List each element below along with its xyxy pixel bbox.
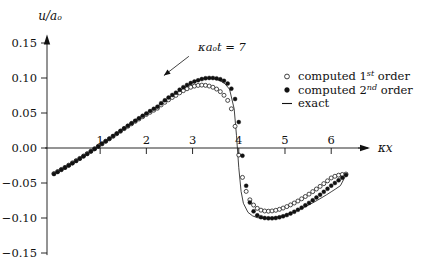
- data-point-2nd-order: [314, 196, 318, 200]
- data-point-2nd-order: [170, 93, 174, 97]
- data-point-1st-order: [229, 107, 233, 111]
- data-point-2nd-order: [277, 215, 281, 219]
- data-point-1st-order: [215, 87, 219, 91]
- y-tick-label: −0.15: [2, 246, 37, 260]
- data-point-2nd-order: [59, 168, 63, 172]
- data-point-2nd-order: [340, 176, 344, 180]
- data-point-2nd-order: [322, 190, 326, 194]
- data-point-2nd-order: [240, 154, 244, 158]
- data-point-1st-order: [240, 175, 244, 179]
- data-point-1st-order: [244, 189, 248, 193]
- data-point-2nd-order: [93, 147, 97, 151]
- data-point-1st-order: [318, 184, 322, 188]
- data-point-2nd-order: [333, 181, 337, 185]
- data-point-2nd-order: [303, 203, 307, 207]
- data-point-2nd-order: [244, 184, 248, 188]
- data-point-2nd-order: [233, 97, 237, 101]
- legend-layer: computed 1st ordercomputed 2nd orderexac…: [282, 69, 413, 110]
- data-point-2nd-order: [104, 139, 108, 143]
- data-point-2nd-order: [52, 172, 56, 176]
- data-point-1st-order: [192, 84, 196, 88]
- axes-layer: [41, 35, 370, 256]
- data-point-2nd-order: [178, 88, 182, 92]
- x-tick-label: 5: [281, 133, 288, 147]
- data-point-2nd-order: [67, 164, 71, 168]
- y-tick-label: 0.05: [11, 106, 37, 120]
- wave-steepening-chart: 123456−0.15−0.10−0.050.000.050.100.15 κa…: [0, 0, 429, 267]
- annotation-arrowhead: [164, 70, 171, 76]
- data-point-1st-order: [218, 90, 222, 94]
- data-point-2nd-order: [222, 79, 226, 83]
- data-point-2nd-order: [107, 137, 111, 141]
- data-point-1st-order: [303, 195, 307, 199]
- data-point-2nd-order: [82, 154, 86, 158]
- data-point-2nd-order: [174, 91, 178, 95]
- data-point-2nd-order: [248, 201, 252, 205]
- data-point-2nd-order: [111, 134, 115, 138]
- data-point-2nd-order: [311, 198, 315, 202]
- data-point-1st-order: [296, 199, 300, 203]
- data-point-2nd-order: [259, 215, 263, 219]
- legend-label: computed 1st order: [298, 69, 410, 83]
- data-point-2nd-order: [196, 78, 200, 82]
- data-point-2nd-order: [74, 159, 78, 163]
- data-point-2nd-order: [337, 178, 341, 182]
- data-point-1st-order: [252, 203, 256, 207]
- data-point-2nd-order: [137, 116, 141, 120]
- legend-marker-open-circle: [285, 74, 290, 79]
- data-point-2nd-order: [167, 96, 171, 100]
- x-tick-label: 4: [235, 133, 242, 147]
- data-point-2nd-order: [181, 85, 185, 89]
- data-point-2nd-order: [281, 214, 285, 218]
- data-point-2nd-order: [326, 187, 330, 191]
- data-point-2nd-order: [133, 119, 137, 123]
- data-point-2nd-order: [85, 152, 89, 156]
- data-point-2nd-order: [270, 216, 274, 220]
- data-point-2nd-order: [192, 80, 196, 84]
- data-point-2nd-order: [159, 101, 163, 105]
- data-point-2nd-order: [252, 209, 256, 213]
- data-point-2nd-order: [318, 193, 322, 197]
- x-axis-title: κx: [377, 141, 393, 155]
- data-point-2nd-order: [152, 107, 156, 111]
- data-point-1st-order: [314, 187, 318, 191]
- data-point-2nd-order: [122, 126, 126, 130]
- data-point-2nd-order: [307, 201, 311, 205]
- y-tick-label: 0.15: [11, 36, 37, 50]
- data-point-2nd-order: [300, 206, 304, 210]
- data-point-2nd-order: [329, 184, 333, 188]
- y-tick-label: 0.00: [11, 141, 37, 155]
- data-point-2nd-order: [274, 216, 278, 220]
- data-point-2nd-order: [141, 114, 145, 118]
- data-point-2nd-order: [296, 208, 300, 212]
- x-tick-label: 3: [189, 133, 196, 147]
- data-point-1st-order: [204, 83, 208, 87]
- data-point-2nd-order: [215, 76, 219, 80]
- x-tick-label: 1: [96, 133, 103, 147]
- data-point-2nd-order: [78, 157, 82, 161]
- data-point-2nd-order: [148, 109, 152, 113]
- data-point-2nd-order: [207, 76, 211, 80]
- y-tick-label: −0.10: [2, 211, 37, 225]
- data-point-2nd-order: [226, 82, 230, 86]
- data-point-2nd-order: [263, 216, 267, 220]
- data-point-2nd-order: [266, 216, 270, 220]
- data-point-2nd-order: [56, 170, 60, 174]
- data-point-1st-order: [233, 124, 237, 128]
- data-point-1st-order: [222, 93, 226, 97]
- data-point-1st-order: [292, 201, 296, 205]
- data-point-2nd-order: [130, 121, 134, 125]
- data-point-1st-order: [337, 173, 341, 177]
- data-point-2nd-order: [189, 81, 193, 85]
- data-point-1st-order: [226, 98, 230, 102]
- y-axis-title: u/aₒ: [38, 9, 62, 23]
- data-point-1st-order: [326, 179, 330, 183]
- data-point-2nd-order: [185, 83, 189, 87]
- data-point-1st-order: [307, 192, 311, 196]
- data-point-2nd-order: [118, 129, 122, 133]
- data-point-2nd-order: [126, 124, 130, 128]
- data-point-2nd-order: [229, 87, 233, 91]
- data-point-2nd-order: [255, 213, 259, 217]
- y-tick-label: 0.10: [11, 71, 37, 85]
- data-point-2nd-order: [144, 111, 148, 115]
